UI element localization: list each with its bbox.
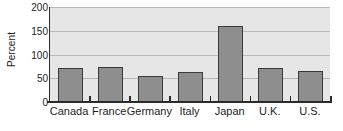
y-axis-tick-label: 50 (18, 73, 48, 84)
x-axis-tick (129, 96, 131, 102)
gridline (50, 55, 330, 56)
y-axis-tick-label: 150 (18, 25, 48, 36)
y-axis-tick-labels: 050100150200 (18, 0, 48, 131)
x-axis-tick (290, 96, 292, 102)
bar-us (298, 71, 323, 102)
gridline (50, 31, 330, 32)
x-axis-label-us: U.S. (299, 105, 320, 117)
gridline (50, 7, 330, 8)
bar-france (98, 67, 123, 102)
bar-italy (178, 72, 203, 102)
x-axis-tick (210, 96, 212, 102)
y-axis-tick-label: 100 (18, 49, 48, 60)
x-axis-tick (89, 96, 91, 102)
x-axis-label-japan: Japan (215, 105, 245, 117)
x-axis-label-uk: U.K. (259, 105, 280, 117)
x-axis-tick (330, 96, 332, 102)
bar-chart: Percent 050100150200 CanadaFranceGermany… (0, 0, 343, 131)
y-axis-tick-label: 0 (18, 97, 48, 108)
x-axis-label-france: France (92, 105, 126, 117)
bar-canada (58, 68, 83, 102)
y-axis-title: Percent (6, 20, 17, 80)
bar-japan (218, 26, 243, 102)
plot-area (49, 7, 330, 102)
bar-uk (258, 68, 283, 102)
x-axis-label-italy: Italy (179, 105, 199, 117)
x-axis-label-germany: Germany (127, 105, 172, 117)
x-axis-tick (250, 96, 252, 102)
bar-germany (138, 76, 163, 102)
y-axis-tick-label: 200 (18, 2, 48, 13)
x-axis-label-canada: Canada (50, 105, 89, 117)
x-axis-tick (169, 96, 171, 102)
